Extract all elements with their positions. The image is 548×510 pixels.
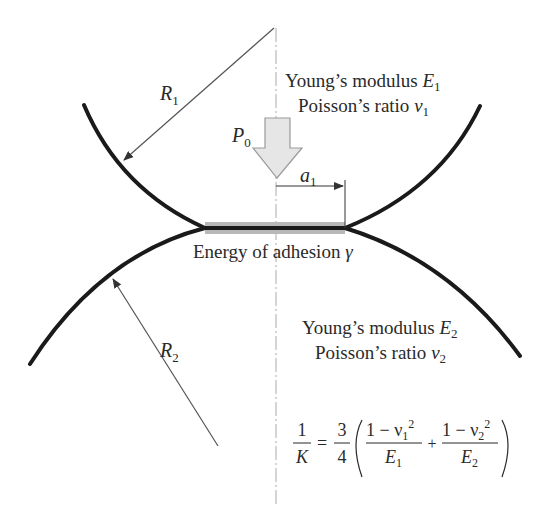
svg-text:+: + [427,435,436,452]
svg-text:1 − ν22: 1 − ν22 [442,417,490,443]
svg-text:1 − ν12: 1 − ν12 [366,417,414,443]
effective-modulus-equation: 1 K = 3 4 1 − ν12 E1 + 1 − ν22 E2 [293,417,508,477]
svg-text:4: 4 [338,447,347,467]
radius-2-label: R2 [159,339,179,365]
svg-text:E1: E1 [384,447,402,470]
svg-text:=: = [317,433,327,453]
load-arrow-icon [253,118,302,178]
adhesion-energy-label: Energy of adhesion γ [193,241,353,262]
svg-text:1: 1 [298,420,307,440]
bottom-poisson-label: Poisson’s ratio ν2 [315,342,446,366]
radius-2-arrow [113,279,218,446]
radius-1-label: R1 [159,82,179,108]
svg-text:K: K [295,447,309,467]
contact-radius-label: a1 [300,164,317,189]
bottom-modulus-label: Young’s modulus E2 [302,317,458,341]
top-modulus-label: Young’s modulus E1 [285,70,441,94]
svg-text:3: 3 [338,420,347,440]
load-label: P0 [231,124,251,150]
radius-1-arrow [124,28,274,160]
svg-text:E2: E2 [460,447,478,470]
jkr-contact-diagram: R1 P0 a1 Young’s modulus E1 Poisson’s ra… [0,0,548,510]
top-poisson-label: Poisson’s ratio ν1 [298,95,429,119]
